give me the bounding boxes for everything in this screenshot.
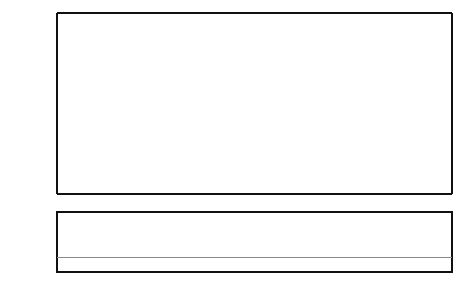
chart-svg (0, 0, 461, 304)
figure-root (0, 0, 461, 304)
panel-federal (57, 212, 452, 272)
panel-private-domestic (57, 13, 452, 194)
top-panel-frame (57, 13, 452, 194)
bottom-panel-frame (57, 212, 452, 272)
